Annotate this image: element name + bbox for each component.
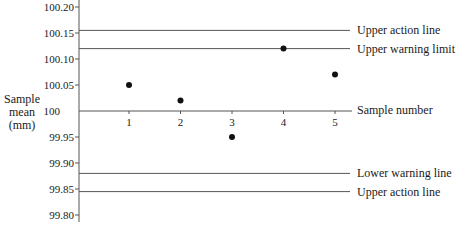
x-tick-label: 1 — [126, 116, 132, 128]
x-tick-label: 2 — [178, 116, 184, 128]
data-point — [281, 46, 287, 52]
reference-line-label: Lower warning line — [357, 166, 452, 180]
y-tick-label: 100 — [44, 105, 61, 117]
control-chart: 100.20100.15100.10100.0510099.9599.9099.… — [0, 0, 458, 229]
y-axis: 100.20100.15100.10100.0510099.9599.9099.… — [44, 0, 80, 222]
svg-text:(mm): (mm) — [9, 118, 36, 132]
x-axis-label: Sample number — [357, 103, 433, 117]
reference-line-label: Upper warning limit — [357, 42, 456, 56]
data-point — [332, 72, 338, 78]
reference-line-label: Upper action line — [357, 185, 440, 199]
y-tick-label: 99.80 — [49, 209, 74, 221]
data-point — [126, 82, 132, 88]
y-tick-label: 100.10 — [44, 53, 75, 65]
data-point — [229, 134, 235, 140]
data-point — [178, 98, 184, 104]
x-tick-label: 5 — [332, 116, 338, 128]
y-tick-label: 99.90 — [49, 157, 74, 169]
svg-text:mean: mean — [9, 105, 35, 119]
svg-text:Sample: Sample — [4, 92, 40, 106]
x-axis: 12345 — [79, 111, 352, 128]
y-tick-label: 100.05 — [44, 79, 75, 91]
x-tick-label: 4 — [281, 116, 287, 128]
reference-line-label: Upper action line — [357, 23, 440, 37]
y-tick-label: 100.15 — [44, 27, 75, 39]
y-tick-label: 99.95 — [49, 131, 74, 143]
y-tick-label: 100.20 — [44, 1, 75, 13]
y-axis-label: Samplemean(mm) — [4, 92, 40, 132]
x-tick-label: 3 — [229, 116, 235, 128]
y-tick-label: 99.85 — [49, 183, 74, 195]
